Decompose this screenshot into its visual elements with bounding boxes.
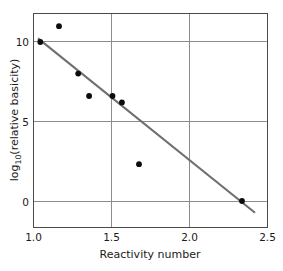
chart-figure: 10 5 0 1.0 1.5 2.0 2.5 Reactivity number… — [0, 0, 283, 271]
scatter-plot-svg: 10 5 0 1.0 1.5 2.0 2.5 Reactivity number… — [0, 0, 283, 271]
data-point — [119, 100, 125, 106]
x-axis-title: Reactivity number — [100, 248, 201, 261]
data-point — [136, 161, 142, 167]
x-tick-label-2p0: 2.0 — [181, 231, 198, 243]
y-axis-title-subscript: 10 — [14, 155, 23, 165]
x-tick-label-1p5: 1.5 — [103, 231, 120, 243]
data-point — [110, 93, 116, 99]
y-tick-label-10: 10 — [16, 36, 29, 48]
data-point — [86, 93, 92, 99]
x-tick-label-2p5: 2.5 — [259, 231, 276, 243]
data-point — [56, 23, 62, 29]
y-tick-label-0: 0 — [22, 196, 29, 208]
data-point — [75, 71, 81, 77]
data-point — [239, 198, 245, 204]
y-axis-title-suffix: (relative basicity) — [8, 59, 21, 155]
x-tick-label-1p0: 1.0 — [25, 231, 42, 243]
data-point — [37, 39, 43, 45]
y-axis-title-prefix: log — [8, 165, 21, 182]
y-tick-label-5: 5 — [22, 116, 29, 128]
